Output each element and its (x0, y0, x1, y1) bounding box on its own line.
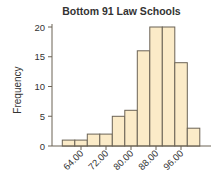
histogram-bar (162, 27, 175, 146)
y-axis-ticks: 05101520 (34, 22, 52, 152)
x-axis-ticks: 64.0072.0080.0088.0096.00 (61, 146, 186, 172)
histogram-bar (125, 110, 138, 146)
y-tick-label: 20 (34, 22, 45, 33)
histogram-bar (150, 27, 163, 146)
histogram-bar (100, 134, 113, 146)
histogram-bar (87, 134, 100, 146)
histogram-bar (75, 140, 88, 146)
x-tick-label: 88.00 (136, 148, 161, 173)
y-tick-label: 15 (34, 51, 45, 62)
x-tick-label: 96.00 (161, 148, 186, 173)
x-tick-label: 80.00 (111, 148, 136, 173)
x-tick-label: 64.00 (61, 148, 86, 173)
y-tick-label: 10 (34, 81, 45, 92)
histogram-bar (112, 116, 125, 146)
x-tick-label: 72.00 (86, 148, 111, 173)
histogram-plot: 05101520 64.0072.0080.0088.0096.00 (0, 0, 221, 188)
histogram-bar (62, 140, 75, 146)
y-tick-label: 5 (40, 111, 45, 122)
histogram-bar (187, 128, 200, 146)
histogram-bar (175, 63, 188, 146)
histogram-bars (62, 27, 200, 146)
y-tick-label: 0 (40, 141, 45, 152)
histogram-bar (137, 51, 150, 146)
